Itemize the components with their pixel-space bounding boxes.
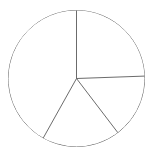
pie-chart-figure <box>0 0 153 153</box>
pie-chart-svg <box>0 0 153 153</box>
